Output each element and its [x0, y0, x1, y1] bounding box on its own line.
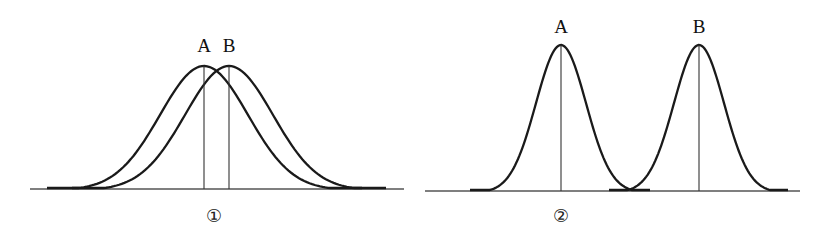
panel-2-label-a: A	[554, 16, 568, 37]
diagram-canvas: A B ① A B ②	[0, 0, 822, 245]
panel-2-separated-distributions: A B ②	[425, 16, 800, 226]
panel-1-label-b: B	[223, 35, 236, 56]
panel-2-label-b: B	[693, 16, 706, 37]
panel-1-overlapping-distributions: A B ①	[30, 35, 404, 226]
panel-2-curve-a	[470, 45, 650, 190]
panel-1-label-a: A	[197, 35, 211, 56]
panel-2-caption: ②	[553, 205, 569, 226]
panel-1-caption: ①	[206, 205, 222, 226]
